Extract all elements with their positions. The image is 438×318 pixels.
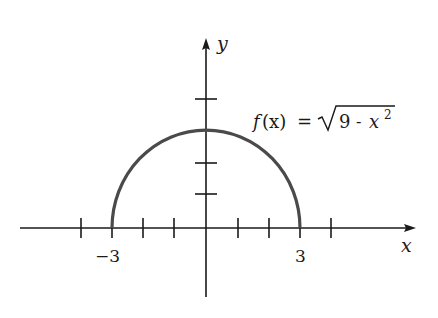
function-graph: y x −3 3 f (x) = 9 - x 2 [0, 0, 438, 318]
function-arg: (x) [262, 111, 286, 132]
x-tick-label-neg3: −3 [95, 246, 120, 266]
radicand-variable: x [369, 111, 379, 132]
x-tick-label-3: 3 [295, 246, 306, 266]
radicand-exponent: 2 [384, 108, 392, 122]
radicand-constant: 9 [339, 111, 350, 132]
y-axis-label: y [216, 32, 228, 54]
equals-sign: = [297, 111, 312, 132]
radicand-minus: - [356, 112, 361, 131]
function-label: f (x) = 9 - x 2 [251, 106, 395, 132]
x-axis-label: x [401, 234, 412, 256]
